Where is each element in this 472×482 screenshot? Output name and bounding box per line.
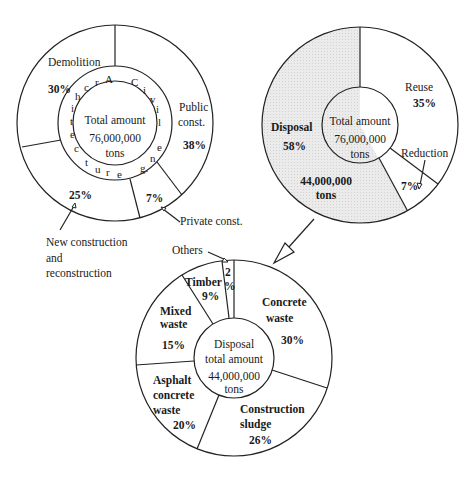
label-newcon-line3: reconstruction [46,267,112,279]
pct-private: 7% [146,192,163,204]
pie-disposal-breakdown: Disposal total amount 44,000,000 tons Co… [136,244,332,456]
pie1-divider-newcon [130,179,140,218]
svg-text:i: i [143,84,146,96]
pct-reuse: 35% [413,97,436,109]
pie1-divider-private [157,162,182,195]
pct-asphalt: 20% [173,419,196,431]
label-asphalt-line3: waste [153,404,180,416]
pct-newcon: 25% [69,189,92,201]
disposal-amount-unit: tons [316,189,337,201]
svg-text:C: C [131,76,138,88]
pct-others-sign: % [224,280,236,292]
connector-arrow [274,219,314,263]
label-asphalt-line2: concrete [153,389,194,401]
svg-text:l: l [158,116,161,128]
pie1-center-unit: tons [105,147,125,159]
label-concrete-line2: waste [266,312,293,324]
pie3-center-amount: 44,000,000 [208,370,260,383]
label-demolition: Demolition [48,56,101,68]
label-sludge-line1: Construction [240,403,305,415]
pie2-center-unit: tons [350,148,370,160]
pie3-divider-concrete-sludge [272,370,327,388]
connector-line [288,219,314,248]
svg-text:r: r [95,76,99,88]
pie3-divider-asphalt-mixed [136,361,194,365]
pct-public: 38% [183,139,206,151]
label-mixed-line1: Mixed [160,305,192,317]
label-mixed-line2: waste [160,318,187,330]
label-disposal: Disposal [271,121,313,134]
pct-timber: 9% [202,290,219,302]
svg-text:e: e [117,168,122,180]
pct-reduction: 7% [401,180,418,192]
label-others: Others [172,244,203,256]
svg-text:c: c [84,81,89,93]
pie3-center-title2: total amount [205,353,264,365]
pct-concrete: 30% [281,334,304,346]
pie2-center-amount: 76,000,000 [334,133,386,146]
label-public-line1: Public [179,101,208,113]
svg-text:t: t [70,115,73,127]
label-concrete-line1: Concrete [262,296,307,308]
reduction-callout-line [420,160,425,185]
svg-text:A: A [105,73,113,85]
label-reuse: Reuse [405,81,433,93]
pct-mixed: 15% [162,339,185,351]
label-sludge-line2: sludge [240,418,271,431]
pct-others-digit: 2 [225,266,231,278]
svg-text:r: r [106,166,110,178]
pct-disposal: 58% [283,140,306,152]
svg-text:g.: g. [140,162,149,174]
newcon-callout-arrow-icon [72,203,76,208]
label-timber: Timber [185,276,222,288]
pie-treatment: Total amount 76,000,000 tons Reuse 35% R… [262,27,458,223]
pie-generation-by-source: A r c h i t e c t u r e C i v i l e n g.… [17,25,243,279]
label-public-line2: const. [178,116,205,128]
label-newcon-line2: and [46,252,63,264]
ring-label-architecture: A r c h i t e c t u r e [70,73,122,180]
svg-text:c: c [74,142,79,154]
pie1-center-amount: 76,000,000 [89,132,141,145]
svg-text:e: e [157,141,162,153]
pie3-divider-sludge-asphalt [197,395,219,449]
svg-text:i: i [71,102,74,114]
pie1-divider-demolition [22,140,61,147]
svg-text:i: i [156,103,159,115]
pie3-center-unit: tons [224,383,244,395]
label-newcon-line1: New construction [46,236,128,248]
svg-text:t: t [85,156,88,168]
pct-demolition: 30% [48,83,71,95]
svg-text:n: n [150,152,156,164]
label-private: Private const. [180,215,243,227]
pie2-center-title: Total amount [330,115,392,127]
newcon-callout-line [60,206,74,230]
pie1-center-title: Total amount [85,114,147,126]
svg-text:h: h [75,90,81,102]
hollow-arrowhead-icon [274,243,294,263]
pct-sludge: 26% [249,434,272,446]
label-asphalt-line1: Asphalt [153,374,192,387]
label-reduction: Reduction [401,147,449,159]
private-callout-line [163,209,180,222]
disposal-amount: 44,000,000 [300,175,352,187]
svg-text:u: u [95,163,101,175]
pie3-center-title1: Disposal [214,338,254,351]
chart-canvas: A r c h i t e c t u r e C i v i l e n g.… [0,0,472,482]
svg-text:e: e [70,128,75,140]
